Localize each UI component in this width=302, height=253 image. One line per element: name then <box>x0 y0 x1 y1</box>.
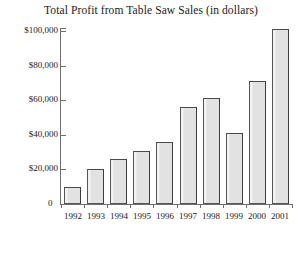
bar-1995 <box>133 151 150 204</box>
x-axis-tick <box>153 204 154 208</box>
y-axis-zero-label: 0 <box>48 198 53 208</box>
x-axis-tick <box>130 204 131 208</box>
x-axis-tick <box>61 204 62 208</box>
x-axis-label-1997: 1997 <box>179 211 197 221</box>
bar-2001 <box>272 29 289 204</box>
x-axis-label-1998: 1998 <box>202 211 220 221</box>
bar-1997 <box>180 107 197 204</box>
chart-container: Total Profit from Table Saw Sales (in do… <box>0 0 302 253</box>
bar-1992 <box>64 187 81 204</box>
x-axis-label-2000: 2000 <box>248 211 266 221</box>
x-axis-tick <box>84 204 85 208</box>
x-axis-label-1995: 1995 <box>133 211 151 221</box>
x-axis-label-1999: 1999 <box>225 211 243 221</box>
x-axis-label-1992: 1992 <box>64 211 82 221</box>
x-axis-label-1994: 1994 <box>110 211 128 221</box>
x-axis-tick <box>107 204 108 208</box>
x-axis-tick <box>269 204 270 208</box>
x-axis-tick <box>246 204 247 208</box>
x-axis-tick <box>200 204 201 208</box>
bar-1998 <box>203 98 220 204</box>
x-axis-label-1993: 1993 <box>87 211 105 221</box>
bar-1993 <box>87 169 104 204</box>
bar-1996 <box>156 142 173 204</box>
x-axis-label-1996: 1996 <box>156 211 174 221</box>
bar-1999 <box>226 133 243 204</box>
x-axis-tick <box>223 204 224 208</box>
bar-2000 <box>249 81 266 204</box>
x-axis-tick <box>292 204 293 208</box>
x-axis-label-2001: 2001 <box>271 211 289 221</box>
x-axis-tick <box>177 204 178 208</box>
bar-1994 <box>110 159 127 204</box>
